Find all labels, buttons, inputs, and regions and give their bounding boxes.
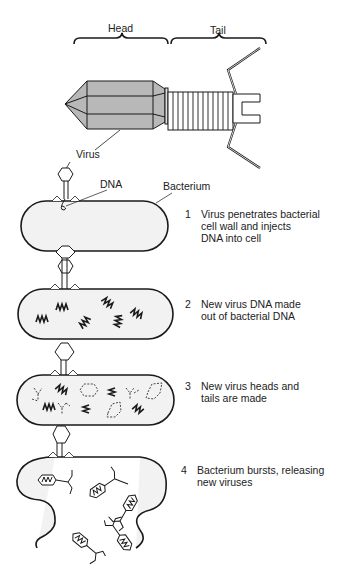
head-brace-icon [74,33,168,44]
step-2: 2 New virus DNA made out of bacterial DN… [185,298,301,322]
virus-tail-icon [168,92,260,130]
step-number: 3 [185,380,201,404]
head-label: Head [108,22,133,34]
step-text: New virus DNA made out of bacterial DNA [201,298,301,322]
step-number: 4 [181,464,197,488]
step-text: Bacterium bursts, releasing new viruses [197,464,324,488]
step-text: Virus penetrates bacterial cell wall and… [201,208,320,244]
bacterium-cell-3 [17,343,174,425]
bacterium-label: Bacterium [163,180,210,192]
bacterium-cell-4-bursting [17,426,166,568]
step-text: New virus heads and tails are made [201,380,299,404]
tail-label: Tail [210,24,226,36]
step-1: 1 Virus penetrates bacterial cell wall a… [185,208,320,244]
bacterium-cell-1 [21,168,172,251]
bacterium-cell-2 [18,246,173,339]
dna-label: DNA [100,178,122,190]
virus-head-icon [65,81,168,129]
virus-pointer-line [95,130,120,150]
diagram-canvas [0,0,343,582]
virus-label: Virus [76,148,100,160]
step-3: 3 New virus heads and tails are made [185,380,299,404]
step-4: 4 Bacterium bursts, releasing new viruse… [181,464,324,488]
step-number: 2 [185,298,201,322]
bacterium-pointer-line [156,193,172,203]
step-number: 1 [185,208,201,244]
